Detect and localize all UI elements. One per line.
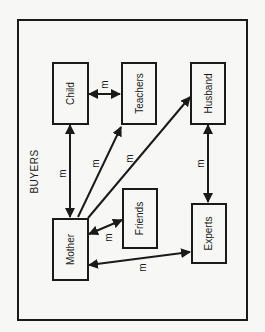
node-experts: Experts [191,203,227,264]
edge-mother-friends [89,220,122,234]
node-teachers-label: Teachers [134,73,145,114]
edge-label-mother-husband: m [124,154,135,162]
node-husband: Husband [190,62,226,125]
node-friends-label: Friends [135,202,146,235]
node-friends: Friends [122,188,158,249]
edge-label-child-teachers: m [99,80,110,88]
edge-label-husband-experts: m [195,159,206,167]
node-husband-label: Husband [203,73,214,113]
edge-label-mother-experts: m [137,263,148,271]
node-child-label: Child [65,82,76,105]
node-mother-label: Mother [65,234,76,265]
edges-layer [0,0,265,332]
edge-label-mother-friends: m [103,233,114,241]
edge-label-mother-teachers: m [90,159,101,167]
node-experts-label: Experts [204,217,215,251]
edge-label-mother-child: m [57,169,68,177]
node-teachers: Teachers [121,62,157,125]
node-child: Child [52,62,89,125]
node-mother: Mother [52,218,89,281]
